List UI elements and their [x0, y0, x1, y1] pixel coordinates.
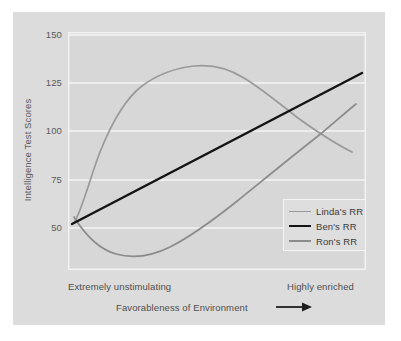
legend-swatch-lindas-rr [289, 211, 311, 212]
x-axis-left-endpoint-label: Extremely unstimulating [68, 281, 171, 292]
legend-label-rons-rr: Ron's RR [316, 236, 357, 247]
x-axis-arrow-icon [274, 300, 314, 314]
y-tick-label-125: 125 [34, 77, 62, 88]
legend-swatch-bens-rr [289, 225, 311, 227]
legend-item-rons-rr: Ron's RR [289, 234, 357, 248]
y-tick-label-150: 150 [34, 29, 62, 40]
y-axis-title: Intelligence Test Scores [22, 99, 33, 202]
legend: Linda's RR Ben's RR Ron's RR [283, 199, 366, 251]
x-axis-title: Favorableness of Environment [116, 302, 248, 313]
y-tick-label-50: 50 [34, 222, 62, 233]
y-tick-label-100: 100 [34, 125, 62, 136]
x-axis-right-endpoint-label: Highly enriched [287, 281, 354, 292]
y-tick-label-75: 75 [34, 174, 62, 185]
legend-item-bens-rr: Ben's RR [289, 219, 357, 233]
legend-label-bens-rr: Ben's RR [316, 221, 357, 232]
legend-item-lindas-rr: Linda's RR [289, 204, 363, 218]
legend-label-lindas-rr: Linda's RR [316, 206, 363, 217]
legend-swatch-rons-rr [289, 240, 311, 242]
chart-screenshot: Intelligence Test Scores 150 125 100 75 … [0, 0, 401, 341]
